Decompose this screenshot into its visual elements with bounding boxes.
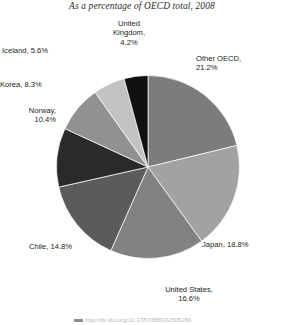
slice-label-chile: Chile, 14.8%: [0, 242, 72, 251]
slice-label-united-kingdom: United Kingdom, 4.2%: [92, 19, 166, 47]
slice-label-norway: Norway, 10.4%: [0, 106, 56, 125]
pie-chart-plot-area: Other OECD 21.2%Japan 18.8%United States…: [56, 75, 240, 259]
source-url-text: http://dx.doi.org/10.1787/888932505286: [85, 317, 191, 323]
chart-title: As a percentage of OECD total, 2008: [0, 1, 284, 11]
slice-label-other-oecd: Other OECD, 21.2%: [196, 54, 280, 73]
slice-label-iceland: Iceland, 5.6%: [2, 46, 88, 55]
pie-chart-figure: As a percentage of OECD total, 2008 Othe…: [0, 0, 284, 325]
source-marker-icon: [74, 319, 83, 322]
pie-svg: Other OECD 21.2%Japan 18.8%United States…: [56, 75, 240, 259]
slice-label-united-states: United States, 16.6%: [146, 285, 232, 304]
pie-slices: Other OECD 21.2%Japan 18.8%United States…: [57, 76, 240, 259]
slice-label-japan: Japan, 18.8%: [202, 240, 282, 249]
slice-label-korea: Korea, 8.3%: [0, 80, 80, 89]
source-link-line[interactable]: http://dx.doi.org/10.1787/888932505286: [72, 316, 284, 324]
